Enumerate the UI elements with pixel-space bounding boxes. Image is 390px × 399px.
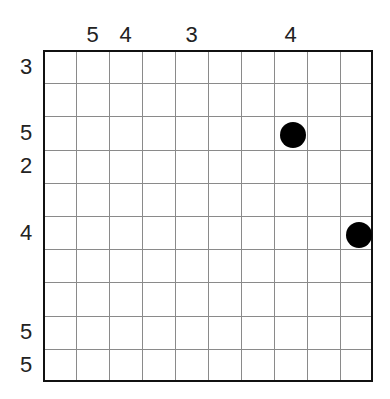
grid-cell[interactable] bbox=[76, 116, 109, 149]
grid-cell[interactable] bbox=[109, 183, 142, 216]
grid-cell[interactable] bbox=[241, 83, 274, 116]
grid-cell[interactable] bbox=[142, 249, 175, 282]
grid-cell[interactable] bbox=[175, 183, 208, 216]
grid-cell[interactable] bbox=[76, 282, 109, 315]
grid-cell[interactable] bbox=[340, 349, 373, 382]
grid-cell[interactable] bbox=[76, 249, 109, 282]
grid-cell[interactable] bbox=[76, 349, 109, 382]
grid-cell[interactable] bbox=[241, 116, 274, 149]
grid-cell[interactable] bbox=[142, 150, 175, 183]
grid-cell[interactable] bbox=[274, 349, 307, 382]
grid-cell[interactable] bbox=[241, 249, 274, 282]
grid-cell[interactable] bbox=[307, 216, 340, 249]
grid-cell[interactable] bbox=[76, 183, 109, 216]
grid-cell[interactable] bbox=[307, 349, 340, 382]
grid-cell[interactable] bbox=[208, 50, 241, 83]
grid-cell[interactable] bbox=[76, 216, 109, 249]
grid-cell[interactable] bbox=[43, 349, 76, 382]
grid-cell[interactable] bbox=[109, 116, 142, 149]
grid-cell[interactable] bbox=[307, 50, 340, 83]
grid-cell[interactable] bbox=[274, 150, 307, 183]
grid-cell[interactable] bbox=[208, 249, 241, 282]
grid-cell[interactable] bbox=[241, 50, 274, 83]
grid-cell[interactable] bbox=[307, 116, 340, 149]
grid-cell[interactable] bbox=[340, 183, 373, 216]
grid-cell[interactable] bbox=[307, 316, 340, 349]
grid-cell[interactable] bbox=[307, 282, 340, 315]
grid-cell[interactable] bbox=[175, 150, 208, 183]
grid-cell[interactable] bbox=[241, 282, 274, 315]
grid-cell[interactable] bbox=[175, 316, 208, 349]
grid-cell[interactable] bbox=[274, 83, 307, 116]
grid-cell[interactable] bbox=[208, 150, 241, 183]
grid-cell[interactable] bbox=[76, 316, 109, 349]
grid-cell[interactable] bbox=[208, 316, 241, 349]
grid-cell[interactable] bbox=[43, 50, 76, 83]
grid-cell[interactable] bbox=[307, 83, 340, 116]
grid-cell[interactable] bbox=[142, 216, 175, 249]
grid-cell[interactable] bbox=[340, 116, 373, 149]
grid-cell[interactable] bbox=[175, 349, 208, 382]
grid-cell[interactable] bbox=[241, 349, 274, 382]
grid-cell[interactable] bbox=[109, 216, 142, 249]
grid-cell[interactable] bbox=[208, 83, 241, 116]
grid-cell[interactable] bbox=[241, 150, 274, 183]
grid-cell[interactable] bbox=[43, 83, 76, 116]
grid-cell[interactable] bbox=[175, 282, 208, 315]
puzzle-grid[interactable] bbox=[43, 50, 373, 382]
grid-cell[interactable] bbox=[43, 116, 76, 149]
grid-cell[interactable] bbox=[109, 349, 142, 382]
grid-cell[interactable] bbox=[109, 83, 142, 116]
grid-cell[interactable] bbox=[142, 50, 175, 83]
grid-cell[interactable] bbox=[43, 249, 76, 282]
grid-cell[interactable] bbox=[76, 150, 109, 183]
grid-cell[interactable] bbox=[142, 183, 175, 216]
grid-cell[interactable] bbox=[175, 83, 208, 116]
grid-cell[interactable] bbox=[340, 150, 373, 183]
grid-cell[interactable] bbox=[241, 183, 274, 216]
grid-cell[interactable] bbox=[175, 249, 208, 282]
grid-cell[interactable] bbox=[340, 50, 373, 83]
grid-cell[interactable] bbox=[274, 183, 307, 216]
grid-cell[interactable] bbox=[208, 116, 241, 149]
grid-cell[interactable] bbox=[175, 50, 208, 83]
grid-cell[interactable] bbox=[208, 349, 241, 382]
grid-cell[interactable] bbox=[241, 316, 274, 349]
grid-cell[interactable] bbox=[307, 183, 340, 216]
grid-cell[interactable] bbox=[43, 183, 76, 216]
grid-cell[interactable] bbox=[142, 116, 175, 149]
grid-cell[interactable] bbox=[43, 216, 76, 249]
grid-cell[interactable] bbox=[43, 282, 76, 315]
grid-cell[interactable] bbox=[43, 316, 76, 349]
grid-cell[interactable] bbox=[340, 316, 373, 349]
grid-cell[interactable] bbox=[241, 216, 274, 249]
grid-cell[interactable] bbox=[76, 83, 109, 116]
grid-cell[interactable] bbox=[175, 116, 208, 149]
grid-cell[interactable] bbox=[76, 50, 109, 83]
grid-cell[interactable] bbox=[340, 83, 373, 116]
grid-cell[interactable] bbox=[109, 150, 142, 183]
grid-cell[interactable] bbox=[109, 316, 142, 349]
grid-cell[interactable] bbox=[43, 150, 76, 183]
grid-cell[interactable] bbox=[109, 249, 142, 282]
grid-cell[interactable] bbox=[274, 249, 307, 282]
grid-cell[interactable] bbox=[340, 249, 373, 282]
grid-cell[interactable] bbox=[208, 183, 241, 216]
grid-cell[interactable] bbox=[307, 249, 340, 282]
row-clue: 2 bbox=[14, 155, 38, 177]
grid-cell[interactable] bbox=[307, 150, 340, 183]
grid-cell[interactable] bbox=[274, 50, 307, 83]
grid-cell[interactable] bbox=[208, 282, 241, 315]
grid-cell[interactable] bbox=[340, 282, 373, 315]
grid-cell[interactable] bbox=[142, 316, 175, 349]
grid-cell[interactable] bbox=[142, 349, 175, 382]
grid-cell[interactable] bbox=[274, 316, 307, 349]
grid-cell[interactable] bbox=[109, 50, 142, 83]
grid-cell[interactable] bbox=[142, 282, 175, 315]
grid-cell[interactable] bbox=[175, 216, 208, 249]
grid-cell[interactable] bbox=[109, 282, 142, 315]
grid-cell[interactable] bbox=[208, 216, 241, 249]
grid-cell[interactable] bbox=[274, 216, 307, 249]
grid-cell[interactable] bbox=[274, 282, 307, 315]
grid-cell[interactable] bbox=[142, 83, 175, 116]
